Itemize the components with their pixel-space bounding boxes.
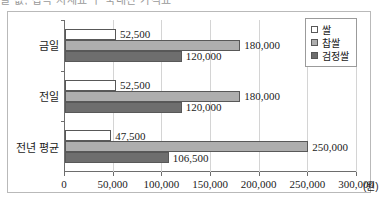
bar-value-label: 52,500 xyxy=(116,28,150,40)
bar[interactable] xyxy=(65,91,240,102)
clipped-page-header: 쌀 값, 잡곡 시세표 ㅣ 국내산 가격표 xyxy=(0,0,379,5)
y-tick xyxy=(61,121,65,122)
bar[interactable] xyxy=(65,130,111,141)
x-tick xyxy=(307,172,308,176)
x-tick xyxy=(259,172,260,176)
bar-value-label: 250,000 xyxy=(308,141,348,153)
bar[interactable] xyxy=(65,80,116,91)
bar[interactable] xyxy=(65,29,116,40)
bar[interactable] xyxy=(65,152,169,163)
y-tick xyxy=(61,71,65,72)
bar[interactable] xyxy=(65,51,182,62)
x-tick-label: 250,000 xyxy=(289,178,325,190)
x-axis-unit-label: (원) xyxy=(363,178,379,193)
legend-label: 검정쌀 xyxy=(322,48,349,63)
category-label: 금일 xyxy=(39,37,59,53)
bar-value-label: 180,000 xyxy=(240,39,280,51)
legend-swatch-icon xyxy=(311,52,318,59)
bar-row: 47,500 xyxy=(65,130,356,141)
bar-row: 180,000 xyxy=(65,91,356,102)
y-tick xyxy=(61,20,65,21)
x-tick-label: 0 xyxy=(61,178,67,190)
chart-frame: 금일52,500180,000120,000전일52,500180,000120… xyxy=(7,11,371,193)
category-label: 전년 평균 xyxy=(16,139,59,155)
legend-swatch-icon xyxy=(311,39,318,46)
x-tick xyxy=(64,172,65,176)
bar-row: 106,500 xyxy=(65,152,356,163)
category-label: 전일 xyxy=(39,88,59,104)
x-tick xyxy=(161,172,162,176)
bar-value-label: 47,500 xyxy=(111,130,145,142)
x-tick-label: 150,000 xyxy=(192,178,228,190)
legend-item[interactable]: 검정쌀 xyxy=(311,49,349,62)
x-tick xyxy=(113,172,114,176)
x-tick xyxy=(356,172,357,176)
x-tick-label: 200,000 xyxy=(241,178,277,190)
bar-row: 120,000 xyxy=(65,102,356,113)
x-tick xyxy=(210,172,211,176)
bar-value-label: 120,000 xyxy=(182,50,222,62)
x-tick-label: 50,000 xyxy=(98,178,128,190)
chart-legend: 쌀찹쌀검정쌀 xyxy=(305,18,357,67)
legend-swatch-icon xyxy=(311,26,318,33)
bar-value-label: 106,500 xyxy=(169,152,209,164)
bar[interactable] xyxy=(65,141,308,152)
bar-group: 전일52,500180,000120,000 xyxy=(65,80,356,113)
bar[interactable] xyxy=(65,102,182,113)
bar-group: 전년 평균47,500250,000106,500 xyxy=(65,130,356,163)
bar-value-label: 52,500 xyxy=(116,79,150,91)
bar-value-label: 120,000 xyxy=(182,101,222,113)
bar[interactable] xyxy=(65,40,240,51)
bar-value-label: 180,000 xyxy=(240,90,280,102)
x-tick-label: 100,000 xyxy=(143,178,179,190)
bar-row: 52,500 xyxy=(65,80,356,91)
bar-row: 250,000 xyxy=(65,141,356,152)
